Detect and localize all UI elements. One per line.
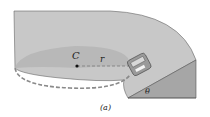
angle-label: θ [145, 87, 150, 96]
banked-curve-diagram [0, 0, 210, 117]
figure-caption: (a) [100, 103, 111, 112]
radius-label: r [100, 54, 104, 64]
center-point [75, 64, 78, 67]
center-label: C [72, 50, 80, 61]
